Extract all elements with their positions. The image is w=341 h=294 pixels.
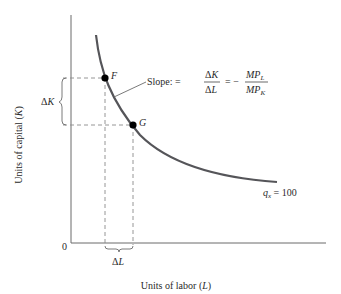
isoquant-diagram: F G ΔK ΔL 0 Units of labor (L) Units of … <box>0 0 341 294</box>
slope-eq: = − <box>225 76 239 87</box>
x-axis-label: Units of labor (L) <box>141 280 211 292</box>
slope-frac2-num: MPL <box>245 69 264 82</box>
point-g <box>129 121 136 128</box>
origin-label: 0 <box>62 241 67 252</box>
curve-label: qx = 100 <box>263 187 297 200</box>
slope-frac1-den: ΔL <box>205 84 217 95</box>
slope-formula: Slope: = ΔK ΔL = − MPL MPK <box>147 69 268 97</box>
slope-prefix: Slope: = <box>147 76 181 87</box>
delta-k-label: ΔK <box>41 96 55 107</box>
delta-k-brace <box>59 78 66 125</box>
slope-leader-line <box>114 82 146 97</box>
delta-l-label: ΔL <box>112 256 124 267</box>
slope-frac1-num: ΔK <box>205 69 219 80</box>
slope-frac2-den: MPK <box>245 84 265 97</box>
isoquant-curve <box>96 35 277 182</box>
point-f <box>101 74 108 81</box>
point-g-label: G <box>139 117 146 128</box>
y-axis-label: Units of capital (K) <box>13 106 25 184</box>
point-f-label: F <box>110 70 118 81</box>
delta-l-brace <box>105 246 133 252</box>
